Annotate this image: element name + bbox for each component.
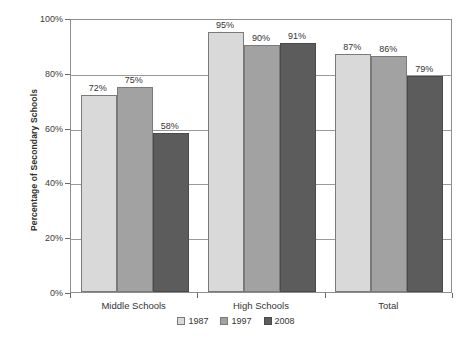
legend-label: 1987 — [188, 316, 208, 326]
bar-value-label: 86% — [379, 44, 397, 54]
bar-total-1997 — [371, 56, 407, 292]
bar-value-label: 87% — [343, 42, 361, 52]
bar-middle-schools-2008 — [153, 133, 189, 292]
x-axis-tick-mark — [70, 293, 71, 298]
legend-item-2008[interactable]: 2008 — [264, 316, 295, 326]
y-axis-tick-label: 20% — [0, 233, 70, 243]
bar-chart: Percentage of Secondary Schools 0%20%40%… — [0, 0, 472, 347]
legend-item-1997[interactable]: 1997 — [220, 316, 251, 326]
x-axis-category-label: High Schools — [233, 300, 289, 311]
legend-swatch-icon — [220, 317, 228, 325]
plot-area — [70, 19, 452, 293]
x-axis-category-label: Middle Schools — [101, 300, 165, 311]
y-axis-tick-label: 0% — [0, 288, 70, 298]
legend-swatch-icon — [177, 317, 185, 325]
bar-total-1987 — [335, 54, 371, 292]
bar-value-label: 91% — [288, 31, 306, 41]
legend-label: 2008 — [275, 316, 295, 326]
bar-high-schools-1997 — [244, 45, 280, 292]
y-axis-tick-label: 60% — [0, 124, 70, 134]
bar-middle-schools-1997 — [117, 87, 153, 293]
legend-swatch-icon — [264, 317, 272, 325]
bar-value-label: 75% — [125, 75, 143, 85]
bar-high-schools-2008 — [280, 43, 316, 292]
bar-high-schools-1987 — [208, 32, 244, 292]
bar-total-2008 — [407, 76, 443, 292]
bar-value-label: 58% — [161, 121, 179, 131]
x-axis-tick-mark — [452, 293, 453, 298]
bar-value-label: 95% — [216, 20, 234, 30]
y-axis-tick-label: 40% — [0, 178, 70, 188]
legend-label: 1997 — [231, 316, 251, 326]
bar-value-label: 90% — [252, 33, 270, 43]
bar-middle-schools-1987 — [81, 95, 117, 292]
bar-value-label: 72% — [89, 83, 107, 93]
bar-value-label: 79% — [415, 64, 433, 74]
x-axis-category-label: Total — [378, 300, 398, 311]
y-axis-tick-label: 80% — [0, 69, 70, 79]
legend-item-1987[interactable]: 1987 — [177, 316, 208, 326]
x-axis-tick-mark — [197, 293, 198, 298]
x-axis-tick-mark — [325, 293, 326, 298]
chart-legend: 198719972008 — [0, 316, 472, 326]
y-axis-tick-label: 100% — [0, 14, 70, 24]
